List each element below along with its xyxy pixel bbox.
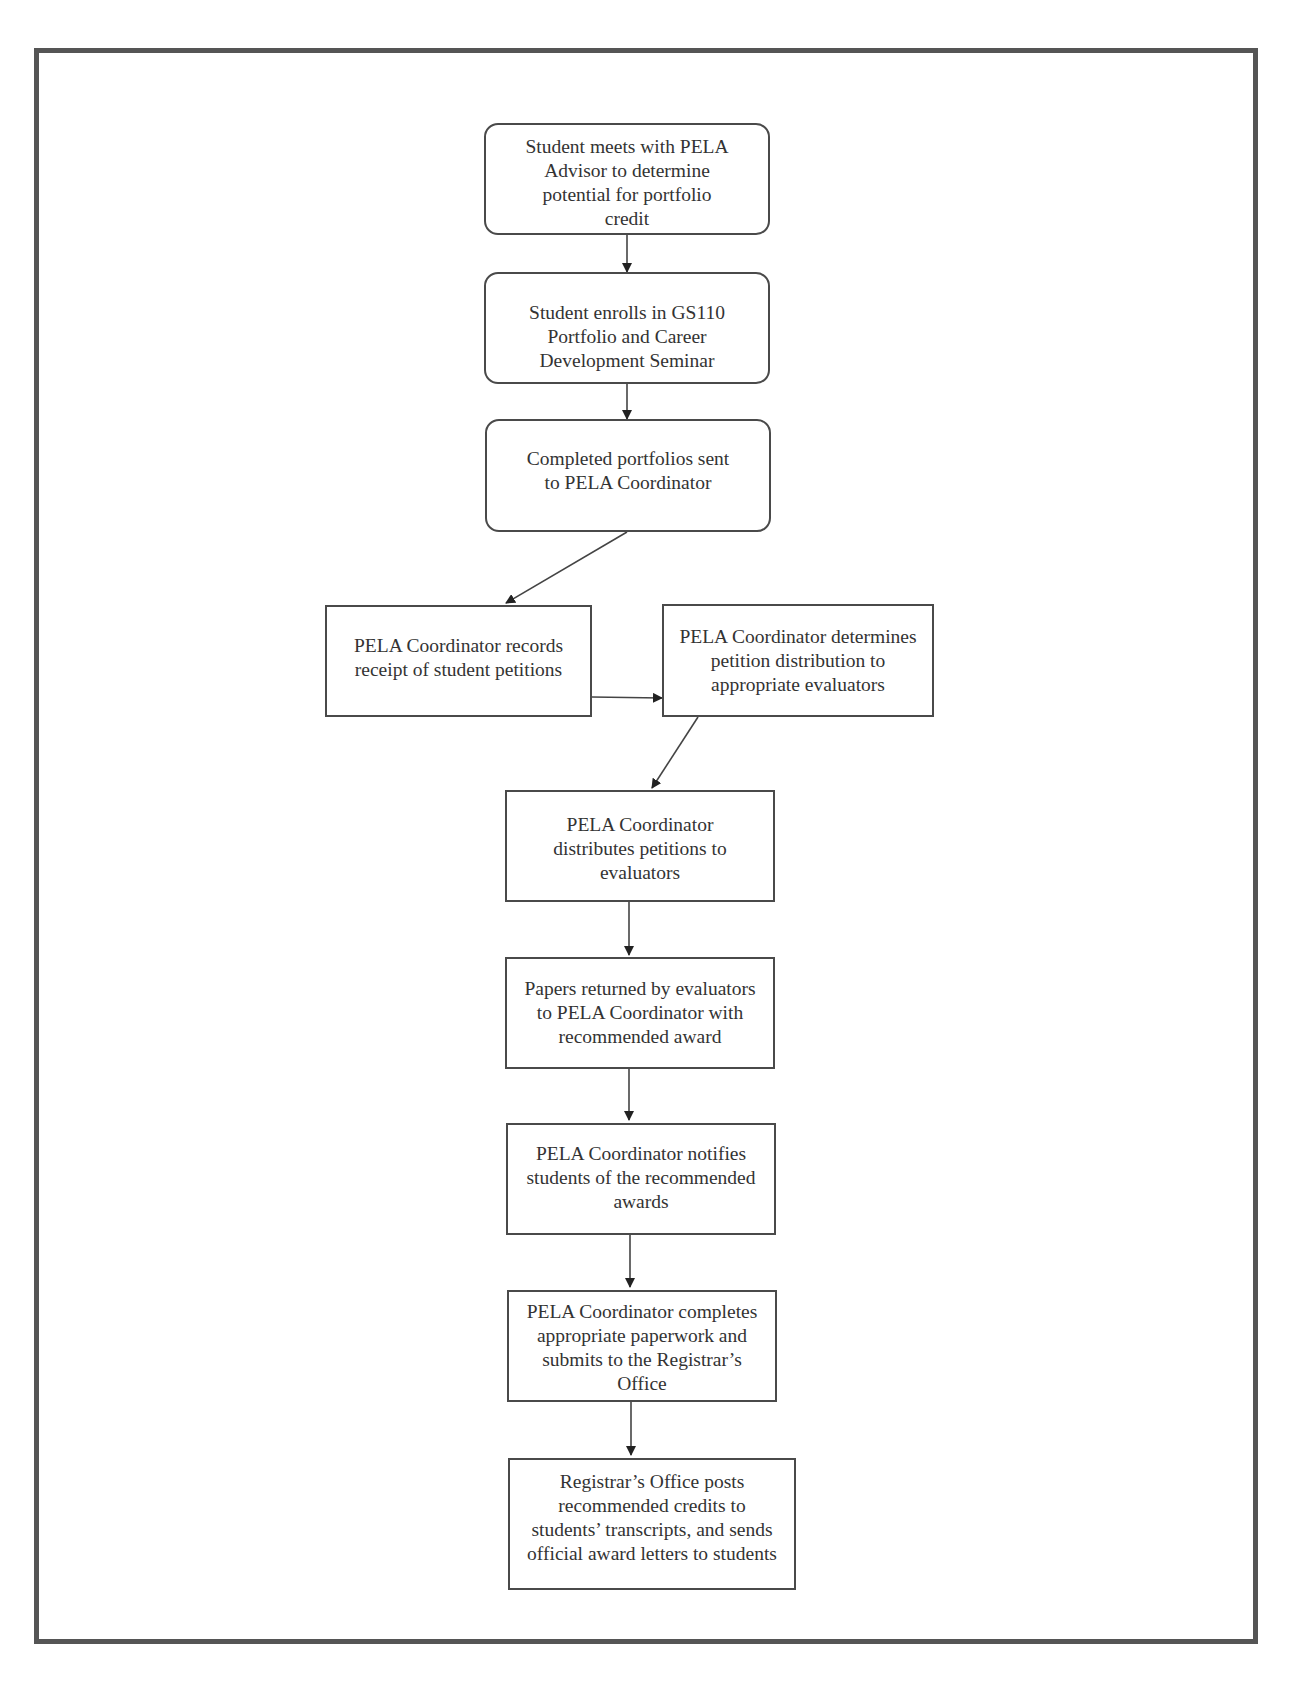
node-label: Student enrolls in GS110 Portfolio and C… — [529, 301, 725, 373]
arrow-n3-n4 — [506, 532, 627, 603]
node-label: Papers returned by evaluators to PELA Co… — [524, 977, 755, 1049]
node-registrar-posts: Registrar’s Office posts recommended cre… — [508, 1458, 796, 1590]
node-distributes-petitions: PELA Coordinator distributes petitions t… — [505, 790, 775, 902]
node-portfolios-sent: Completed portfolios sent to PELA Coordi… — [485, 419, 771, 532]
arrow-n5-n6 — [652, 717, 698, 788]
node-label: Completed portfolios sent to PELA Coordi… — [527, 447, 730, 495]
node-determines-distribution: PELA Coordinator determines petition dis… — [662, 604, 934, 717]
node-enroll-gs110: Student enrolls in GS110 Portfolio and C… — [484, 272, 770, 384]
arrow-n4-n5 — [592, 697, 662, 698]
node-notifies-students: PELA Coordinator notifies students of th… — [506, 1123, 776, 1235]
node-advisor-meeting: Student meets with PELA Advisor to deter… — [484, 123, 770, 235]
node-label: Student meets with PELA Advisor to deter… — [525, 135, 728, 231]
node-records-receipt: PELA Coordinator records receipt of stud… — [325, 605, 592, 717]
node-label: PELA Coordinator determines petition dis… — [679, 625, 916, 697]
node-label: PELA Coordinator notifies students of th… — [526, 1142, 755, 1214]
node-label: PELA Coordinator distributes petitions t… — [553, 813, 726, 885]
node-papers-returned: Papers returned by evaluators to PELA Co… — [505, 957, 775, 1069]
node-completes-paperwork: PELA Coordinator completes appropriate p… — [507, 1290, 777, 1402]
node-label: PELA Coordinator records receipt of stud… — [354, 634, 563, 682]
node-label: Registrar’s Office posts recommended cre… — [527, 1470, 777, 1566]
node-label: PELA Coordinator completes appropriate p… — [527, 1300, 758, 1396]
